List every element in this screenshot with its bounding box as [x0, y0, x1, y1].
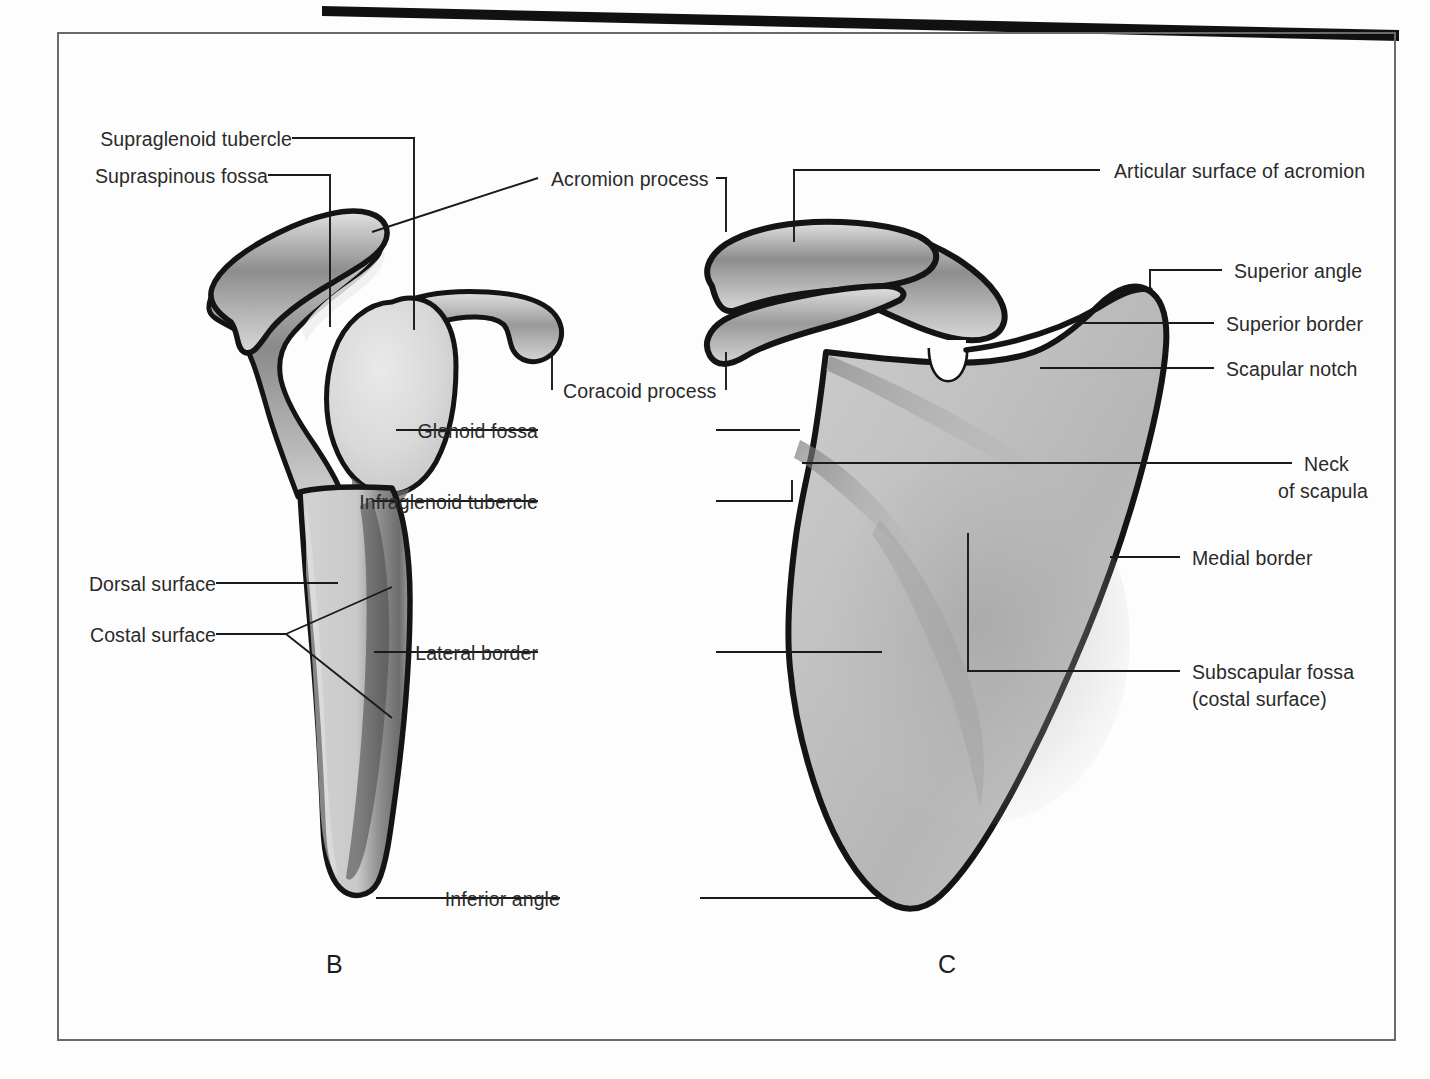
- label-acromion-process: Acromion process: [551, 167, 709, 193]
- label-subscapular-fossa-line1: Subscapular fossa: [1192, 660, 1354, 686]
- label-supraglenoid-tubercle: Supraglenoid tubercle: [36, 127, 292, 153]
- label-subscapular-fossa-line2: (costal surface): [1192, 687, 1327, 713]
- label-supraspinous-fossa: Supraspinous fossa: [36, 164, 268, 190]
- label-superior-angle: Superior angle: [1234, 259, 1362, 285]
- label-articular-surface-of-acromion: Articular surface of acromion: [1114, 159, 1365, 185]
- figure-letter-c: C: [938, 950, 956, 979]
- label-lateral-border: Lateral border: [388, 641, 538, 667]
- label-neck-of-scapula-line2: of scapula: [1278, 479, 1368, 505]
- label-coracoid-process: Coracoid process: [563, 379, 716, 405]
- anatomy-plate: Supraglenoid tubercle Supraspinous fossa…: [0, 0, 1430, 1079]
- label-dorsal-surface: Dorsal surface: [36, 572, 216, 598]
- label-scapular-notch: Scapular notch: [1226, 357, 1357, 383]
- label-costal-surface: Costal surface: [36, 623, 216, 649]
- label-glenoid-fossa: Glenoid fossa: [388, 419, 538, 445]
- label-superior-border: Superior border: [1226, 312, 1363, 338]
- label-neck-of-scapula-line1: Neck: [1304, 452, 1349, 478]
- glenoid-fossa-surface: [327, 298, 457, 495]
- label-medial-border: Medial border: [1192, 546, 1313, 572]
- label-infraglenoid-tubercle: Infraglenoid tubercle: [318, 490, 538, 516]
- label-inferior-angle: Inferior angle: [420, 887, 560, 913]
- figure-letter-b: B: [326, 950, 343, 979]
